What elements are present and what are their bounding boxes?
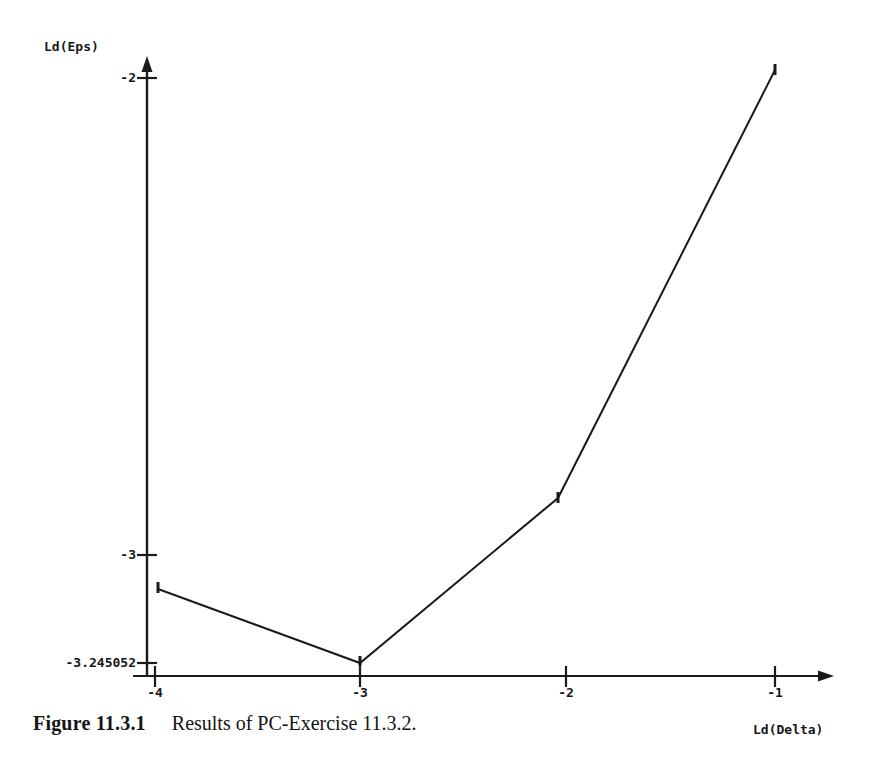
- y-axis: [137, 56, 157, 676]
- x-tick-label-minus3: -3: [340, 686, 380, 699]
- x-axis-title: Ld(Delta): [753, 723, 823, 736]
- data-point-markers: [158, 64, 775, 666]
- figure-caption-number: Figure 11.3.1: [33, 712, 146, 734]
- x-axis: [133, 666, 834, 687]
- data-line: [158, 70, 775, 663]
- x-tick-label-minus4: -4: [135, 686, 175, 699]
- y-axis-title: Ld(Eps): [44, 40, 99, 53]
- plot-canvas: [0, 0, 884, 710]
- y-tick-label-minimum: -3.245052: [20, 656, 136, 669]
- y-tick-label-minus2: -2: [58, 71, 136, 84]
- x-tick-label-minus2: -2: [546, 686, 586, 699]
- x-tick-label-minus1: -1: [755, 686, 795, 699]
- figure-caption: Figure 11.3.1Results of PC-Exercise 11.3…: [33, 712, 733, 735]
- figure-container: Ld(Eps) Ld(Delta) -2 -3 -3.245052 -4 -3 …: [0, 0, 884, 765]
- y-tick-label-minus3: -3: [58, 548, 136, 561]
- figure-caption-text: Results of PC-Exercise 11.3.2.: [172, 712, 417, 734]
